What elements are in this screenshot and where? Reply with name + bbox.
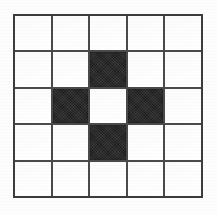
- grid-cell-r2c3: [90, 52, 126, 86]
- grid-cell-r2c2: [53, 52, 89, 86]
- grid-cell-r3c3: [90, 89, 126, 123]
- grid-cell-r2c5: [165, 52, 201, 86]
- grid-cell-r3c2: [53, 89, 89, 123]
- grid-cell-r1c3: [90, 16, 126, 50]
- grid-cell-r1c4: [128, 16, 164, 50]
- grid-cell-r1c5: [165, 16, 201, 50]
- grid-cell-r5c2: [53, 162, 89, 196]
- grid-cell-r4c3: [90, 125, 126, 159]
- grid-cell-r3c5: [165, 89, 201, 123]
- grid-cell-r4c5: [165, 125, 201, 159]
- grid-cell-r5c3: [90, 162, 126, 196]
- grid-cell-r4c1: [15, 125, 51, 159]
- figure-canvas: [0, 0, 217, 214]
- grid-cell-r5c5: [165, 162, 201, 196]
- grid-cell-r2c1: [15, 52, 51, 86]
- grid-cell-r1c2: [53, 16, 89, 50]
- grid-figure: [13, 14, 203, 198]
- grid-cell-r4c2: [53, 125, 89, 159]
- grid-cell-r5c4: [128, 162, 164, 196]
- grid-cell-r3c4: [128, 89, 164, 123]
- grid-cell-r4c4: [128, 125, 164, 159]
- grid-cell-r2c4: [128, 52, 164, 86]
- grid-cell-r3c1: [15, 89, 51, 123]
- grid-cell-r5c1: [15, 162, 51, 196]
- grid-cell-r1c1: [15, 16, 51, 50]
